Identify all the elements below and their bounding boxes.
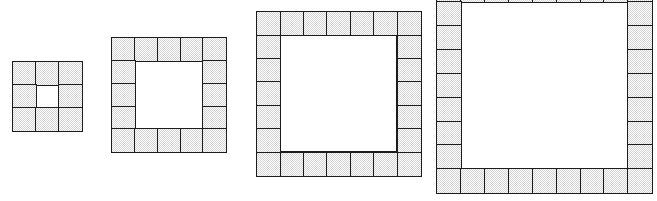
figure-3-hole: [280, 35, 397, 152]
shaded-tile: [202, 128, 226, 152]
shaded-tile: [111, 128, 135, 152]
shaded-tile: [256, 81, 281, 106]
shaded-tile: [111, 83, 135, 107]
shaded-tile: [35, 61, 60, 86]
shaded-tile: [58, 107, 83, 132]
shaded-tile: [35, 107, 60, 132]
shaded-tile: [180, 37, 204, 61]
shaded-tile: [436, 168, 461, 193]
shaded-tile: [303, 11, 328, 36]
shaded-tile: [627, 1, 652, 26]
figure-4: [437, 0, 652, 193]
shaded-tile: [111, 106, 135, 130]
shaded-tile: [373, 11, 398, 36]
shaded-tile: [397, 58, 422, 83]
shaded-tile: [202, 83, 226, 107]
shaded-tile: [397, 81, 422, 106]
shaded-tile: [397, 128, 422, 153]
shaded-tile: [280, 11, 305, 36]
figure-1: [13, 62, 82, 131]
shaded-tile: [436, 1, 461, 26]
shaded-tile: [556, 168, 581, 193]
shaded-tile: [256, 35, 281, 60]
shaded-tile: [12, 61, 37, 86]
shaded-tile: [436, 144, 461, 169]
shaded-tile: [436, 73, 461, 98]
shaded-tile: [280, 152, 305, 177]
shaded-tile: [627, 25, 652, 50]
shaded-tile: [436, 25, 461, 50]
shaded-tile: [580, 168, 605, 193]
shaded-tile: [603, 168, 628, 193]
shaded-tile: [256, 58, 281, 83]
shaded-tile: [111, 60, 135, 84]
figure-2: [112, 38, 226, 152]
shaded-tile: [627, 49, 652, 74]
shaded-tile: [180, 128, 204, 152]
shaded-tile: [157, 128, 181, 152]
figure-2-hole: [135, 61, 203, 129]
shaded-tile: [256, 11, 281, 36]
shaded-tile: [326, 11, 351, 36]
shaded-tile: [627, 97, 652, 122]
shaded-tile: [436, 121, 461, 146]
shaded-tile: [256, 105, 281, 130]
shaded-tile: [326, 152, 351, 177]
shaded-tile: [484, 168, 509, 193]
shaded-tile: [202, 60, 226, 84]
shaded-tile: [350, 11, 375, 36]
shaded-tile: [627, 73, 652, 98]
shaded-tile: [303, 152, 328, 177]
shaded-tile: [436, 49, 461, 74]
shaded-tile: [508, 168, 533, 193]
shaded-tile: [58, 84, 83, 109]
shaded-tile: [532, 168, 557, 193]
shaded-tile: [627, 144, 652, 169]
figure-3: [257, 12, 421, 176]
shaded-tile: [111, 37, 135, 61]
shaded-tile: [627, 121, 652, 146]
shaded-tile: [460, 168, 485, 193]
shaded-tile: [397, 152, 422, 177]
shaded-tile: [350, 152, 375, 177]
shaded-tile: [373, 152, 398, 177]
shaded-tile: [58, 61, 83, 86]
shaded-tile: [397, 105, 422, 130]
figure-stage: [0, 0, 657, 201]
shaded-tile: [12, 107, 37, 132]
figure-1-hole: [36, 85, 59, 108]
figure-4-hole: [461, 2, 628, 169]
shaded-tile: [202, 37, 226, 61]
shaded-tile: [436, 97, 461, 122]
shaded-tile: [397, 11, 422, 36]
shaded-tile: [12, 84, 37, 109]
shaded-tile: [134, 37, 158, 61]
shaded-tile: [134, 128, 158, 152]
shaded-tile: [256, 128, 281, 153]
shaded-tile: [256, 152, 281, 177]
shaded-tile: [627, 168, 652, 193]
shaded-tile: [157, 37, 181, 61]
shaded-tile: [397, 35, 422, 60]
shaded-tile: [202, 106, 226, 130]
